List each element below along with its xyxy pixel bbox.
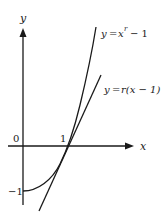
svg-text:y: y bbox=[100, 28, 107, 39]
x-tick-label-1: 1 bbox=[60, 133, 66, 144]
svg-text:− 1: − 1 bbox=[130, 28, 148, 39]
y-axis-arrow-icon bbox=[20, 28, 27, 37]
svg-text:y: y bbox=[103, 84, 110, 95]
svg-text:r(x − 1): r(x − 1) bbox=[121, 84, 160, 95]
svg-text:=: = bbox=[109, 28, 117, 39]
y-axis-label: y bbox=[19, 12, 27, 25]
tangent-line-label: y = r(x − 1) bbox=[103, 84, 160, 95]
origin-label: 0 bbox=[13, 133, 19, 144]
x-axis-arrow-icon bbox=[125, 143, 134, 150]
y-tick-label-minus-1: −1 bbox=[8, 186, 23, 197]
x-axis-label: x bbox=[140, 140, 147, 153]
svg-text:=: = bbox=[112, 84, 120, 95]
tangent-line bbox=[39, 75, 101, 211]
plot-canvas: y x 0 1 −1 y = x r − 1 y = r(x − 1) bbox=[0, 0, 165, 220]
function-plot-figure: y x 0 1 −1 y = x r − 1 y = r(x − 1) bbox=[0, 0, 165, 220]
svg-text:r: r bbox=[124, 25, 128, 33]
power-curve-label: y = x r − 1 bbox=[100, 25, 148, 39]
